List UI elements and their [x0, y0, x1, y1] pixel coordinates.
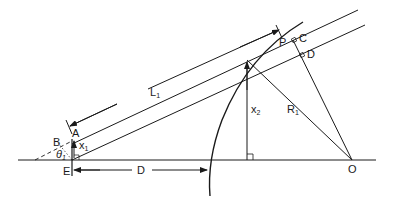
label-p: P	[279, 36, 286, 48]
label-a: A	[72, 127, 80, 139]
parallel-lines	[72, 10, 365, 160]
label-d-point: D	[307, 48, 315, 60]
label-c: C	[299, 32, 307, 44]
label-b: B	[53, 136, 60, 148]
r1-line	[247, 60, 352, 160]
label-l1: L1	[150, 86, 160, 99]
label-r1: R1	[287, 103, 299, 116]
cd-line	[291, 37, 352, 160]
label-o: O	[348, 163, 357, 175]
label-x1: x1	[79, 139, 89, 152]
label-theta: θ1	[56, 148, 66, 161]
geometry-diagram: P C D A B E O θ1 L1 x1 x2 R1 D	[0, 0, 395, 206]
label-e: E	[63, 165, 70, 177]
label-x2: x2	[251, 103, 261, 116]
l1-dimension	[66, 25, 282, 134]
label-d-distance: D	[137, 164, 145, 176]
